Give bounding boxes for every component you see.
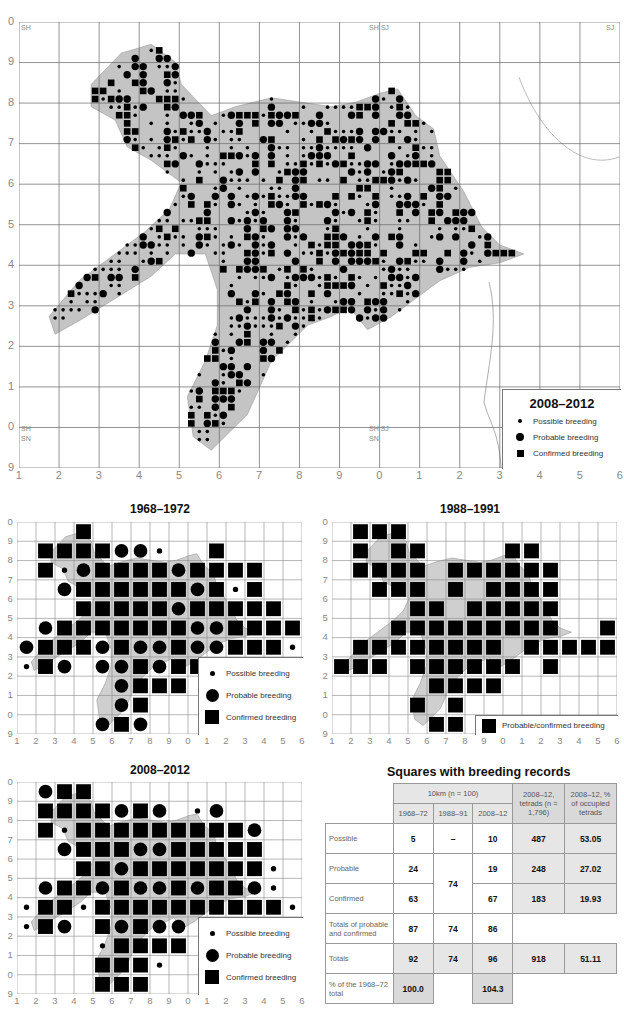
map-2008-legend: Possible breeding Probable breeding Conf… [198, 917, 303, 995]
y-tick-label: 9 [323, 535, 328, 546]
x-tick-label: 1 [204, 735, 209, 746]
legend-label: Confirmed breeding [533, 449, 603, 458]
x-tick-label: 6 [299, 995, 304, 1006]
x-tick-label: 9 [481, 735, 486, 746]
x-tick-label: 3 [52, 735, 57, 746]
legend-label: Possible breeding [226, 669, 290, 678]
y-tick-label: 1 [8, 380, 14, 392]
x-tick-label: 2 [223, 995, 228, 1006]
x-tick-label: 8 [147, 735, 152, 746]
y-tick-label: 2 [8, 930, 13, 941]
row-label: Confirmed [326, 884, 394, 914]
y-tick-label: 9 [8, 988, 13, 999]
large-dot-icon [206, 949, 219, 962]
x-tick-label: 5 [405, 735, 410, 746]
cell-tetrads: 918 [513, 944, 565, 974]
x-tick-label: 4 [261, 995, 266, 1006]
cell-2008: 86 [473, 914, 513, 944]
x-tick-label: 1 [14, 995, 19, 1006]
y-tick-label: 7 [8, 136, 14, 148]
x-tick-label: 7 [128, 735, 133, 746]
legend-label: Confirmed breeding [226, 713, 296, 722]
y-tick-label: 8 [8, 96, 14, 108]
x-tick-label: 3 [242, 735, 247, 746]
cell-pct: 19.93 [565, 884, 617, 914]
legend-label: Possible breeding [533, 417, 597, 426]
y-tick-label: 0 [8, 15, 14, 27]
x-tick-label: 5 [176, 469, 182, 481]
square-icon [205, 710, 219, 724]
y-tick-label: 5 [8, 612, 13, 623]
y-tick-label: 2 [8, 670, 13, 681]
x-tick-label: 3 [497, 469, 503, 481]
y-tick-label: 9 [8, 55, 14, 67]
y-tick-label: 0 [8, 969, 13, 980]
cell-pct: 27.02 [565, 854, 617, 884]
cell-1968: 63 [393, 884, 433, 914]
cell-pct: 51.11 [565, 944, 617, 974]
cell-1968: 5 [393, 824, 433, 854]
x-tick-label: 6 [109, 995, 114, 1006]
header-1988: 1988–91 [433, 804, 473, 824]
cell-1968: 24 [393, 854, 433, 884]
grid-label-top-left: SH [21, 24, 31, 31]
large-dot-icon [516, 433, 524, 441]
x-tick-label: 0 [376, 469, 382, 481]
y-tick-label: 7 [8, 574, 13, 585]
y-tick-label: 2 [323, 670, 328, 681]
x-tick-label: 5 [595, 735, 600, 746]
cell-1968: 92 [393, 944, 433, 974]
x-tick-label: 1 [14, 735, 19, 746]
cell-2008: 10 [473, 824, 513, 854]
x-tick-label: 0 [185, 735, 190, 746]
table-row-pct-of-1968: % of the 1968–72 total 100.0 104.3 [326, 974, 617, 1004]
y-tick-label: 7 [8, 834, 13, 845]
x-tick-label: 1 [16, 469, 22, 481]
y-tick-label: 3 [8, 651, 13, 662]
table-row-possible: Possible 5 – 10 487 53.05 [326, 824, 617, 854]
legend-label: Probable breeding [533, 433, 598, 442]
x-tick-label: 4 [537, 469, 543, 481]
y-tick-label: 9 [8, 728, 13, 739]
x-tick-label: 7 [256, 469, 262, 481]
x-tick-label: 4 [261, 735, 266, 746]
legend-item-confirmed: Confirmed breeding [503, 445, 621, 461]
x-tick-label: 1 [416, 469, 422, 481]
main-map-legend: 2008–2012 Possible breeding Probable bre… [502, 389, 621, 469]
x-tick-label: 6 [614, 735, 619, 746]
large-dot-icon [206, 689, 219, 702]
grid-label-bottom-left-upper: SH [21, 425, 31, 432]
y-tick-label: 7 [323, 574, 328, 585]
y-tick-label: 6 [8, 853, 13, 864]
x-tick-label: 5 [280, 995, 285, 1006]
y-tick-label: 4 [323, 631, 328, 642]
y-tick-label: 6 [8, 593, 13, 604]
y-tick-label: 9 [8, 795, 13, 806]
cell-1988-merged: 74 [433, 854, 473, 914]
square-icon [517, 450, 524, 457]
x-tick-label: 6 [424, 735, 429, 746]
y-tick-label: 0 [8, 776, 13, 787]
map-2008-2012: Possible breeding Probable breeding Conf… [17, 782, 302, 994]
x-tick-label: 7 [128, 995, 133, 1006]
grid-label-top-right: SJ [606, 24, 614, 31]
map-1988-legend: Probable/confirmed breeding [475, 715, 618, 735]
map-title-1968: 1968–1972 [60, 502, 260, 516]
cell-1988: – [433, 824, 473, 854]
x-tick-label: 9 [166, 735, 171, 746]
cell-1988: 74 [433, 944, 473, 974]
x-tick-label: 1 [204, 995, 209, 1006]
table-row-probable: Probable 24 74 19 248 27.02 [326, 854, 617, 884]
legend-item-confirmed: Confirmed breeding [199, 966, 303, 988]
cell-1988: 74 [433, 914, 473, 944]
x-tick-label: 1 [329, 735, 334, 746]
grid-label-bottom-left-lower: SN [21, 435, 31, 442]
legend-item-possible: Possible breeding [503, 413, 621, 429]
y-tick-label: 0 [8, 709, 13, 720]
x-tick-label: 6 [299, 735, 304, 746]
small-dot-icon [518, 419, 522, 423]
x-tick-label: 3 [52, 995, 57, 1006]
table-row-totals: Totals 92 74 96 918 51.11 [326, 944, 617, 974]
y-tick-label: 1 [8, 689, 13, 700]
cell-tetrads: 487 [513, 824, 565, 854]
